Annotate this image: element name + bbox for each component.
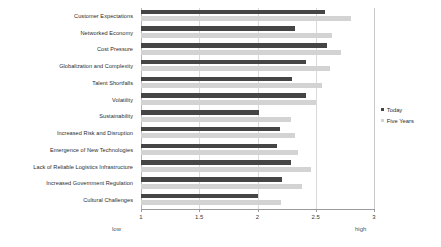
bar-row [141,192,374,209]
category-axis-labels: Customer ExpectationsNetworked EconomyCo… [0,8,137,209]
bar-today[interactable] [141,177,282,182]
category-label: Talent Shortfalls [0,80,133,87]
bar-chart: Customer ExpectationsNetworked EconomyCo… [0,0,441,247]
legend-label-today: Today [387,107,402,113]
bar-row [141,58,374,75]
bar-five-years[interactable] [141,150,298,155]
bar-row [141,42,374,59]
bar-today[interactable] [141,26,295,31]
x-tick [374,209,375,212]
legend-label-five-years: Five Years [387,118,414,124]
bar-five-years[interactable] [141,50,341,55]
bar-row [141,109,374,126]
bar-five-years[interactable] [141,66,330,71]
bar-today[interactable] [141,93,306,98]
bar-today[interactable] [141,127,280,132]
bar-five-years[interactable] [141,83,322,88]
legend-item-today[interactable]: Today [381,104,439,115]
bar-row [141,75,374,92]
x-tick-label: 1 [139,214,142,220]
bar-today[interactable] [141,77,292,82]
category-label: Emergence of New Technologies [0,147,133,154]
bar-today[interactable] [141,160,291,165]
category-label: Lack of Reliable Logistics Infrastructur… [0,164,133,171]
bar-row [141,159,374,176]
bar-five-years[interactable] [141,16,351,21]
x-tick [258,209,259,212]
bar-today[interactable] [141,43,327,48]
bar-five-years[interactable] [141,117,291,122]
bar-row [141,176,374,193]
category-label: Increased Risk and Disruption [0,130,133,137]
x-tick-label: 3 [372,214,375,220]
legend-swatch-today-icon [381,108,384,111]
category-label: Sustainability [0,113,133,120]
bar-five-years[interactable] [141,133,295,138]
category-label: Cost Pressure [0,46,133,53]
axis-endcap-high: high [355,226,366,232]
bar-five-years[interactable] [141,100,316,105]
bar-row [141,125,374,142]
bar-today[interactable] [141,10,325,15]
bar-row [141,92,374,109]
x-tick-label: 2 [256,214,259,220]
bar-rows [141,8,374,209]
bar-row [141,8,374,25]
category-label: Globalization and Complexity [0,63,133,70]
bar-today[interactable] [141,60,306,65]
bar-five-years[interactable] [141,33,332,38]
x-tick-label: 2.5 [312,214,320,220]
legend-item-five-years[interactable]: Five Years [381,115,439,126]
bar-five-years[interactable] [141,200,281,205]
category-label: Networked Economy [0,30,133,37]
category-label: Increased Government Regulation [0,180,133,187]
bar-today[interactable] [141,194,258,199]
category-label: Cultural Challenges [0,197,133,204]
x-tick [141,209,142,212]
legend: Today Five Years [381,104,439,126]
bar-today[interactable] [141,144,277,149]
category-label: Volatility [0,97,133,104]
bar-five-years[interactable] [141,184,302,189]
gridline-3 [374,8,375,209]
bar-five-years[interactable] [141,167,311,172]
bar-row [141,142,374,159]
x-tick [199,209,200,212]
x-tick [316,209,317,212]
plot-area [141,8,374,209]
x-tick-label: 1.5 [195,214,203,220]
legend-swatch-five-years-icon [381,119,384,122]
bar-row [141,25,374,42]
category-label: Customer Expectations [0,13,133,20]
axis-endcap-low: low [112,226,121,232]
bar-today[interactable] [141,110,259,115]
